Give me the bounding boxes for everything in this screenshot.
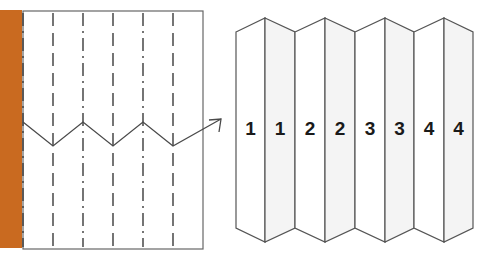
panel-number-6: 4 [424, 118, 435, 139]
panel-number-5: 3 [394, 118, 405, 139]
pleated-section-cross-view [0, 10, 221, 249]
diagram-root: 11223344 [0, 0, 479, 261]
panel-number-0: 1 [245, 118, 256, 139]
panel-number-2: 2 [305, 118, 316, 139]
panel-number-4: 3 [365, 118, 376, 139]
panel-number-1: 1 [275, 118, 286, 139]
panel-number-7: 4 [453, 118, 464, 139]
diagram-canvas: 11223344 [0, 0, 479, 261]
accordion-face-group [236, 18, 473, 242]
panel-number-3: 2 [335, 118, 346, 139]
orange-light-source-bar [0, 10, 22, 248]
accordion-fold-panels: 11223344 [236, 18, 473, 242]
